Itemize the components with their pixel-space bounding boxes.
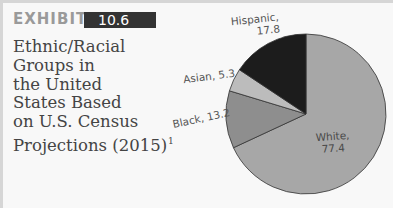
label-white: White, 77.4: [315, 129, 350, 155]
pie-chart: [0, 0, 393, 208]
pie-slices: [226, 34, 386, 194]
